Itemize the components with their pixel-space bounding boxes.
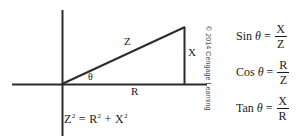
equation-equals: = (79, 112, 86, 126)
formula-tan-denominator: R (279, 109, 287, 122)
formula-cos: Cos θ = R Z (236, 54, 301, 90)
horizontal-leg-label: R (131, 86, 138, 97)
formula-cos-theta: θ (255, 65, 264, 80)
vertical-leg-label: X (188, 47, 196, 58)
formula-sin-numerator: X (276, 23, 285, 36)
equation-lhs-base: Z (64, 112, 72, 126)
trigonometry-figure: Z R X θ Z2 = R2 + X2 © 2014 Cengage Lear… (0, 0, 301, 140)
equation-rhs-second-base: X (115, 112, 124, 126)
formula-tan-numerator: X (278, 95, 287, 108)
formula-cos-fraction: R Z (277, 59, 289, 86)
formula-sin-fraction: X Z (275, 23, 287, 50)
equation-rhs-first-exponent: 2 (97, 112, 101, 120)
angle-theta-label: θ (88, 72, 93, 82)
formula-tan-equals: = (263, 101, 277, 116)
trig-formula-list: Sin θ = X Z Cos θ = R Z Tan θ = X (236, 18, 301, 126)
equation-rhs-second-exponent: 2 (124, 112, 128, 120)
formula-cos-equals: = (264, 65, 278, 80)
formula-tan-function: Tan (236, 101, 254, 116)
hypotenuse-label: Z (124, 36, 131, 47)
formula-cos-numerator: R (279, 59, 287, 72)
copyright-notice: © 2014 Cengage Learning (201, 26, 215, 126)
formula-sin-function: Sin (236, 29, 252, 44)
formula-cos-denominator: Z (280, 73, 287, 86)
pythagorean-equation: Z2 = R2 + X2 (64, 112, 128, 127)
formula-sin-equals: = (261, 29, 275, 44)
formula-tan-fraction: X R (277, 95, 289, 122)
formula-sin-denominator: Z (277, 37, 284, 50)
formula-cos-function: Cos (236, 65, 255, 80)
formula-tan-theta: θ (254, 101, 263, 116)
formula-tan: Tan θ = X R (236, 90, 301, 126)
formula-sin: Sin θ = X Z (236, 18, 301, 54)
formula-sin-theta: θ (252, 29, 261, 44)
equation-lhs-exponent: 2 (72, 112, 76, 120)
equation-plus: + (105, 112, 112, 126)
